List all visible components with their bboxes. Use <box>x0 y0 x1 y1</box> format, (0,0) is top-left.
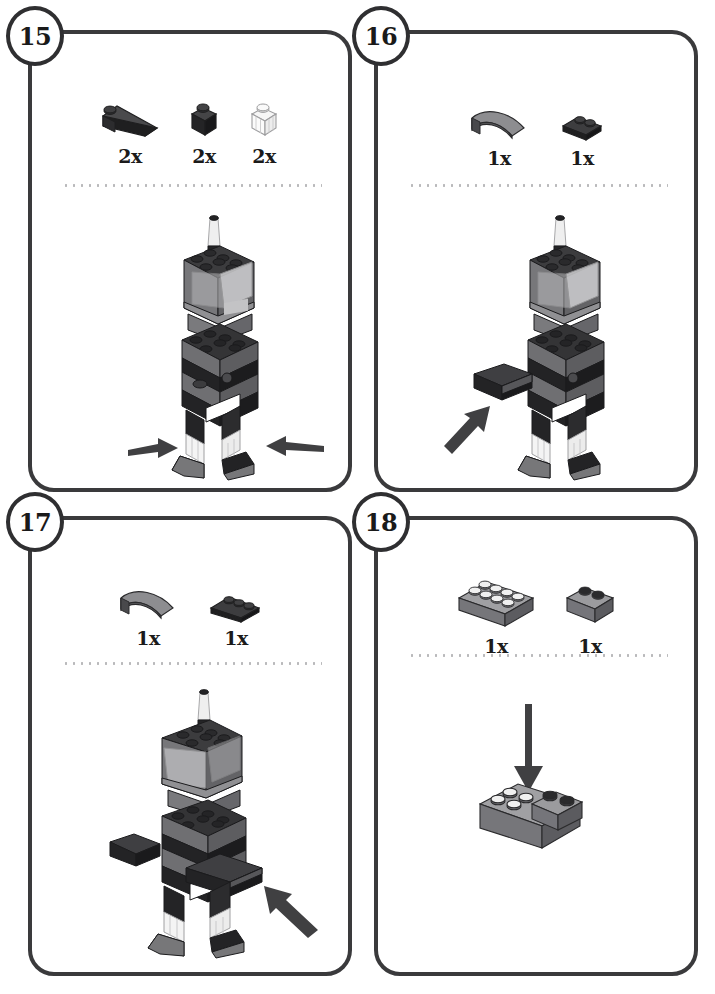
assembly-arrows <box>444 406 490 454</box>
part-black-slope-1x3: 2x <box>99 94 161 167</box>
part-grey-curved-slope-1x3: 1x <box>466 96 532 169</box>
part-icon-brick-1x1-black <box>187 94 221 140</box>
step-panel-17: 17 1x <box>28 516 352 976</box>
parts-divider-15 <box>62 184 322 187</box>
part-qty-label: 2x <box>118 145 142 167</box>
part-black-plate-1x3: 1x <box>207 576 265 649</box>
assembly-arrows <box>514 704 543 792</box>
part-qty-label: 1x <box>570 147 594 169</box>
part-black-plate-1x2: 1x <box>558 96 606 169</box>
parts-list-18: 1x 1x <box>378 572 694 657</box>
part-icon-curved-slope-grey <box>115 576 181 622</box>
part-qty-label: 1x <box>136 627 160 649</box>
parts-divider-17 <box>62 662 322 665</box>
parts-divider-18 <box>408 654 668 657</box>
instruction-page: 15 2x <box>0 0 715 994</box>
step-number-badge-17: 17 <box>6 492 64 552</box>
part-icon-brick-1x2-grey <box>561 572 619 630</box>
part-icon-brick-1x1-clear <box>247 94 281 140</box>
part-qty-label: 1x <box>487 147 511 169</box>
part-icon-plate-1x2-black <box>558 96 606 142</box>
part-icon-brick-2x4-grey <box>453 572 539 630</box>
assembly-arrows <box>264 886 318 938</box>
part-qty-label: 2x <box>252 145 276 167</box>
step-number-badge-16: 16 <box>352 6 410 66</box>
model-figure-18 <box>470 700 630 860</box>
step-panel-16: 16 1x <box>374 30 698 492</box>
part-clear-brick-1x1: 2x <box>247 94 281 167</box>
part-grey-brick-1x2: 1x <box>561 572 619 657</box>
parts-list-16: 1x 1x <box>378 96 694 169</box>
part-black-brick-1x1: 2x <box>187 94 221 167</box>
part-qty-label: 1x <box>224 627 248 649</box>
new-part-left-arm <box>474 364 532 400</box>
step-panel-15: 15 2x <box>28 30 352 492</box>
part-grey-brick-2x4: 1x <box>453 572 539 657</box>
parts-list-15: 2x 2x <box>32 94 348 167</box>
step-number-badge-15: 15 <box>6 6 64 66</box>
step-panel-18: 18 <box>374 516 698 976</box>
model-figure-17 <box>90 686 320 962</box>
part-icon-slope-black <box>99 94 161 140</box>
existing-left-arm <box>110 834 160 866</box>
parts-divider-16 <box>408 184 668 187</box>
parts-list-17: 1x 1x <box>32 576 348 649</box>
part-icon-plate-1x3-black <box>207 576 265 622</box>
model-figure-16 <box>444 212 654 482</box>
part-qty-label: 2x <box>192 145 216 167</box>
part-icon-curved-slope-grey <box>466 96 532 142</box>
model-figure-15 <box>128 212 328 482</box>
part-grey-curved-slope-1x3: 1x <box>115 576 181 649</box>
step-number-badge-18: 18 <box>352 492 410 552</box>
